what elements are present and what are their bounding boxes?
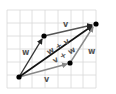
vector-parallelogram-diagram: w v v w w + v v + w xyxy=(0,0,116,94)
point-sum-tip xyxy=(93,21,98,26)
label-w-left: w xyxy=(22,48,30,57)
label-w-right: w xyxy=(88,47,96,56)
point-origin xyxy=(16,74,21,79)
label-v-bottom: v xyxy=(44,75,50,84)
label-v-top: v xyxy=(63,20,69,29)
point-w-tip xyxy=(41,33,46,38)
point-v-tip xyxy=(67,60,72,65)
